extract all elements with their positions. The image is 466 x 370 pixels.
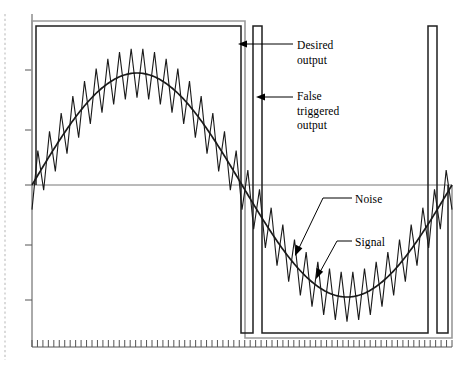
annotation-desired-output-line1: Desired bbox=[297, 38, 333, 53]
arrow-head-icon bbox=[238, 41, 247, 48]
false-triggered-output-waveform bbox=[36, 26, 448, 333]
desired-output-leader bbox=[238, 41, 293, 48]
annotation-false-triggered-output-line1: False bbox=[297, 89, 339, 104]
annotation-signal: Signal bbox=[355, 235, 385, 250]
annotation-false-triggered-output: False triggered output bbox=[297, 89, 339, 133]
desired-output-waveform bbox=[32, 21, 452, 338]
arrow-head-icon bbox=[295, 245, 302, 256]
annotation-noise: Noise bbox=[355, 192, 382, 207]
annotation-false-triggered-output-line3: output bbox=[297, 118, 339, 133]
annotation-desired-output-line2: output bbox=[297, 53, 333, 68]
waveform-plot bbox=[0, 0, 466, 370]
y-axis-ticks bbox=[25, 70, 32, 300]
annotation-desired-output: Desired output bbox=[297, 38, 333, 67]
noise-leader bbox=[295, 198, 352, 256]
waveform-figure: Desired output False triggered output No… bbox=[0, 0, 466, 370]
arrow-head-icon bbox=[256, 94, 265, 101]
signal-leader bbox=[316, 241, 352, 279]
x-axis-ticks bbox=[32, 340, 452, 347]
annotation-false-triggered-output-line2: triggered bbox=[297, 104, 339, 119]
